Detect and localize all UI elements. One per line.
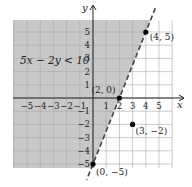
x-tick-label: −2 [60, 101, 73, 111]
x-tick-label: −4 [34, 101, 47, 111]
point-label: (0, −5) [96, 167, 128, 177]
x-axis-label: x [177, 99, 183, 110]
x-tick-label: 5 [156, 101, 161, 111]
x-tick-label: 3 [130, 101, 135, 111]
y-tick-label: −2 [77, 119, 90, 129]
inequality-graph: −5−4−3−2−11234554321−1−2−3−4−5 (2, 0)(4,… [0, 0, 192, 187]
y-tick-label: −1 [77, 106, 90, 116]
inequality-label: 5x − 2y < 10 [20, 54, 90, 66]
y-axis-label: y [81, 2, 88, 13]
data-point [117, 95, 122, 100]
x-tick-label: −3 [47, 101, 60, 111]
y-tick-label: 4 [85, 40, 90, 50]
data-point [90, 161, 95, 166]
y-tick-label: 5 [85, 27, 90, 37]
data-point [143, 29, 148, 34]
y-tick-label: −3 [77, 133, 90, 143]
point-label: (4, 5) [150, 32, 174, 42]
point-label: (3, −2) [136, 126, 168, 136]
point-label: (2, 0) [91, 85, 115, 95]
x-tick-label: −5 [21, 101, 34, 111]
data-point [130, 122, 135, 127]
y-tick-label: −4 [77, 146, 90, 156]
y-tick-label: −5 [77, 159, 90, 169]
y-tick-label: 1 [85, 80, 90, 90]
x-tick-label: 2 [117, 101, 122, 111]
x-tick-label: 4 [143, 101, 148, 111]
x-tick-label: 1 [103, 101, 108, 111]
y-tick-label: 2 [85, 67, 90, 77]
